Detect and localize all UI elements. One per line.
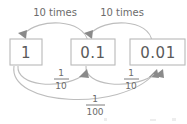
scan-artifact bbox=[104, 118, 107, 121]
scan-artifact bbox=[172, 118, 176, 121]
diagram-canvas: 1 0.1 0.01 10 times 10 times 1 10 1 10 1… bbox=[0, 0, 187, 124]
fraction-right-denominator: 10 bbox=[125, 81, 137, 91]
edge-label-fraction-left: 1 10 bbox=[54, 68, 69, 91]
arc-fraction-left bbox=[18, 66, 82, 84]
node-label-1: 1 bbox=[21, 44, 31, 62]
fraction-left-denominator: 10 bbox=[55, 81, 67, 91]
fraction-left-numerator: 1 bbox=[58, 68, 64, 78]
edge-label-times-left: 10 times bbox=[33, 7, 77, 18]
edge-label-fraction-right: 1 10 bbox=[124, 68, 139, 91]
arrowhead-times-left-icon bbox=[18, 30, 27, 39]
fraction-right-numerator: 1 bbox=[128, 68, 134, 78]
node-label-2: 0.1 bbox=[80, 44, 105, 62]
fraction-bottom-denominator: 100 bbox=[86, 107, 103, 117]
arrowhead-fraction-left-icon bbox=[79, 69, 89, 78]
node-label-3: 0.01 bbox=[140, 44, 175, 62]
decimal-place-value-diagram: 1 0.1 0.01 10 times 10 times 1 10 1 10 1… bbox=[0, 0, 187, 124]
fraction-bottom-numerator: 1 bbox=[92, 94, 98, 104]
arc-fraction-right bbox=[86, 66, 152, 84]
scan-artifact bbox=[150, 119, 156, 121]
edge-label-times-right: 10 times bbox=[100, 7, 144, 18]
